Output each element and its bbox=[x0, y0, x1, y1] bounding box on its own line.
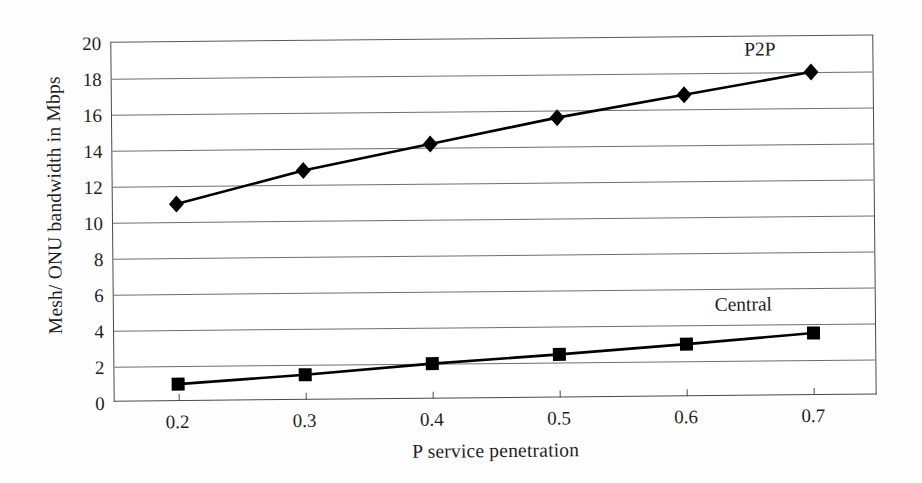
data-point-marker-p2p bbox=[169, 196, 184, 213]
y-axis-tick-label: 12 bbox=[84, 177, 103, 199]
x-axis-tick-label: 0.5 bbox=[547, 407, 571, 429]
data-point-marker-central bbox=[807, 326, 820, 339]
data-point-marker-central bbox=[553, 348, 566, 361]
data-point-marker-p2p bbox=[550, 109, 565, 126]
y-axis-tick-label: 10 bbox=[84, 213, 103, 235]
x-axis-tick-labels-group: 0.20.30.40.50.60.7 bbox=[0, 0, 920, 5]
y-axis-tick-label: 4 bbox=[94, 321, 104, 343]
plot-area: 02468101214161820 P2PCentral bbox=[110, 34, 876, 401]
series-label-p2p: P2P bbox=[744, 38, 776, 60]
y-axis-tick-label: 18 bbox=[83, 69, 102, 91]
y-axis-tick-label: 0 bbox=[95, 393, 105, 415]
y-axis-tick-label: 20 bbox=[82, 33, 101, 55]
series-line-central bbox=[178, 333, 814, 384]
y-axis-tick-label: 2 bbox=[95, 357, 105, 379]
data-point-marker-p2p bbox=[423, 135, 438, 152]
y-axis-tick-label: 16 bbox=[83, 105, 102, 127]
data-point-marker-central bbox=[680, 338, 693, 351]
data-point-marker-p2p bbox=[803, 63, 818, 80]
y-axis-tick-label: 8 bbox=[94, 249, 104, 271]
y-axis-tick-label: 6 bbox=[94, 285, 104, 307]
data-point-marker-central bbox=[299, 368, 312, 381]
data-series-group bbox=[111, 35, 877, 402]
series-label-central: Central bbox=[714, 294, 772, 317]
y-axis-tick-label: 14 bbox=[83, 141, 102, 163]
x-axis-tick-label: 0.6 bbox=[674, 406, 698, 428]
data-point-marker-central bbox=[172, 378, 185, 391]
data-point-marker-central bbox=[426, 357, 439, 370]
chart-skew-wrapper: Mesh/ ONU bandwidth in Mbps 024681012141… bbox=[0, 0, 922, 483]
chart-figure: Mesh/ ONU bandwidth in Mbps 024681012141… bbox=[0, 0, 922, 483]
x-axis-title: P service penetration bbox=[114, 436, 877, 465]
series-line-p2p bbox=[175, 72, 812, 204]
y-axis-title: Mesh/ ONU bandwidth in Mbps bbox=[42, 5, 68, 405]
data-point-marker-p2p bbox=[676, 86, 691, 103]
data-point-marker-p2p bbox=[296, 162, 311, 179]
x-axis-tick-label: 0.4 bbox=[420, 409, 444, 431]
x-axis-tick-label: 0.7 bbox=[801, 405, 825, 427]
x-axis-tick-label: 0.3 bbox=[293, 410, 317, 432]
x-axis-tick-label: 0.2 bbox=[166, 411, 190, 433]
